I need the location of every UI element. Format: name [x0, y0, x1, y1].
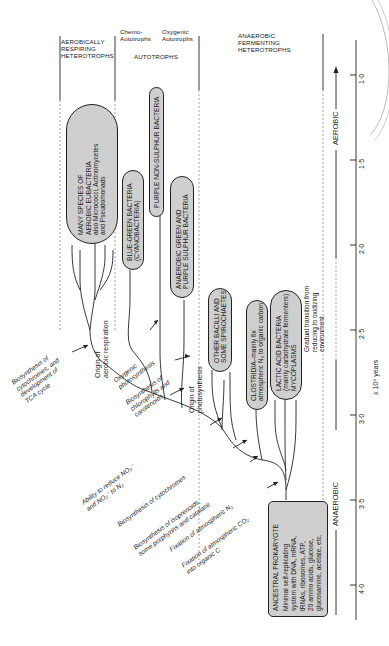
group-purple-non-sulphur: PURPLE NON-SULPHUR BACTERIA — [149, 87, 164, 217]
group-clostridia: CLOSTRIDIA–mainly fix atmospheric N₂ to … — [246, 300, 268, 410]
group-line: PURPLE NON-SULPHUR BACTERIA — [153, 96, 160, 208]
box-title: ANCESTRAL PROKARYOTE — [272, 507, 280, 611]
event-origin-photosynthesis: Origin of photosynthesis — [188, 366, 204, 413]
env-anaerobic-label: ANAEROBIC — [331, 480, 340, 528]
box-line: system with DNA, mRNA, — [290, 507, 298, 611]
header-aerobic-heterotrophs: AEROBICALLY RESPIRING HETEROTROPHS — [61, 38, 114, 60]
group-line: MANY SPECIES OF — [77, 113, 84, 235]
env-line: reducing to oxidizing — [311, 286, 319, 352]
group-line: (CYANOBACTERIA) — [133, 179, 140, 261]
group-line: MYCOPLASMS — [290, 299, 297, 391]
header-chemo-autotrophs: Chemo- Autotrophs — [120, 28, 151, 42]
group-line: SOME SPIROCHAETES — [220, 297, 227, 363]
group-green-purple-sulphur: ANAEROBIC GREEN AND PURPLE SULPHUR BACTE… — [170, 176, 194, 298]
group-line: also Micrococci, Actinomycetes — [92, 113, 99, 235]
event-line: aerobic respiration — [102, 320, 110, 378]
group-aerobic-eubacteria: MANY SPECIES OF AEROBIC EUBACTERIA also … — [66, 104, 118, 244]
env-aerobic-label: AEROBIC — [331, 109, 340, 147]
group-ancestral-prokaryote: ANCESTRAL PROKARYOTE Minimal self-replic… — [268, 501, 328, 617]
group-line: LACTIC ACID BACTERIA — [275, 299, 282, 391]
header-autotrophs: AUTOTROPHS — [134, 53, 178, 60]
header-oxygenic-autotrophs: Oxygenic Autotrophs — [162, 28, 193, 42]
env-transition-label: Gradual transition from reducing to oxid… — [303, 286, 326, 352]
group-line: CLOSTRIDIA–mainly fix — [250, 309, 257, 401]
group-line: AEROBIC EUBACTERIA — [85, 113, 92, 235]
box-line: Minimal self-replicating — [282, 507, 290, 611]
axis-tick: 2·0 — [358, 244, 365, 254]
box-line: glucosamine, acetate, etc. — [315, 507, 323, 611]
axis-tick: 3·5 — [358, 499, 365, 509]
group-lactic-acid-bacteria: LACTIC ACID BACTERIA (mainly carbohydrat… — [270, 290, 302, 400]
box-line: 20 amino acids, glucose, — [307, 507, 315, 611]
axis-tick: 4·0 — [358, 584, 365, 594]
group-line: (mainly carbohydrate fermenters) — [282, 299, 289, 391]
group-line: ANAEROBIC GREEN AND — [175, 185, 182, 289]
axis-tick: 2·5 — [358, 329, 365, 339]
group-line: atmospheric N₂ to organic carbon — [257, 309, 264, 401]
env-line: environment — [318, 286, 326, 352]
group-line: and Pseudomonads — [99, 113, 106, 235]
group-blue-green-bacteria: BLUE-GREEN BACTERIA (CYANOBACTERIA) — [122, 170, 144, 270]
box-line: tRNAs, ribosomes, ATP, — [299, 507, 307, 611]
group-line: OTHER BACILLI AND — [213, 297, 220, 363]
group-line: BLUE-GREEN BACTERIA — [126, 179, 133, 261]
event-line: Origin of — [188, 366, 196, 413]
event-line: Origin of — [94, 320, 102, 378]
axis-unit-label: x 10⁹ years — [372, 360, 379, 395]
phylogeny-branches — [0, 0, 389, 646]
axis-tick: 1·5 — [358, 159, 365, 169]
event-origin-aerobic-respiration: Origin of aerobic respiration — [94, 320, 110, 378]
axis-tick: 3·0 — [358, 414, 365, 424]
group-bacilli-spirochaetes: OTHER BACILLI AND SOME SPIROCHAETES — [208, 288, 232, 372]
env-line: Gradual transition from — [303, 286, 311, 352]
axis-tick: 1·0 — [358, 74, 365, 84]
header-anaerobic-heterotrophs: ANAEROBIC FERMENTING HETEROTROPHS — [238, 32, 291, 54]
group-line: PURPLE SULPHUR BACTERIA — [182, 185, 189, 289]
event-line: photosynthesis — [196, 366, 204, 413]
